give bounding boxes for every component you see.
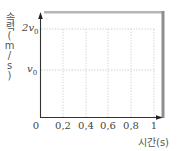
x-tick-0-4: 0,4 <box>78 120 94 131</box>
frame-right-border <box>162 11 165 118</box>
x-tick-0-2: 0,2 <box>55 120 71 131</box>
y-tick-v0: v0 <box>27 63 37 77</box>
x-tick-0-6: 0,6 <box>100 120 116 131</box>
y-axis-title: 속력(m/s) <box>4 12 14 80</box>
frame-top-border <box>44 11 164 14</box>
y-tick-2v0: 2v0 <box>22 22 39 36</box>
y-tick-2v0-sub: 0 <box>34 28 38 36</box>
x-tick-1: 1 <box>151 120 157 131</box>
grid-vertical <box>63 29 154 117</box>
x-axis-title: 시간(s) <box>138 134 169 149</box>
x-tick-origin: 0 <box>33 120 39 131</box>
y-tick-v0-sub: 0 <box>33 69 37 77</box>
x-tick-0-8: 0,8 <box>123 120 139 131</box>
y-axis-arrow-icon <box>38 12 43 19</box>
grid-horizontal <box>41 29 154 70</box>
